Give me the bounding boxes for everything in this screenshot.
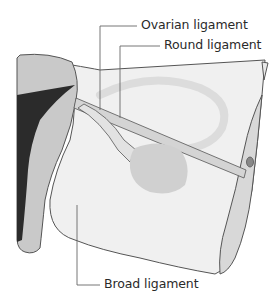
ovarian-ligament-label: Ovarian ligament bbox=[141, 17, 248, 32]
broad-ligament-label: Broad ligament bbox=[104, 276, 199, 291]
round-ligament-end bbox=[247, 157, 254, 167]
round-ligament-label: Round ligament bbox=[164, 37, 261, 52]
